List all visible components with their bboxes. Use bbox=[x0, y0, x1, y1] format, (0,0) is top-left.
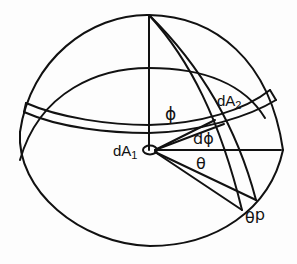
label-dA1: dA1 bbox=[113, 143, 137, 161]
label-dA1-sub: 1 bbox=[131, 149, 137, 161]
label-dA2: dA2 bbox=[217, 93, 241, 111]
band-left-cap bbox=[24, 103, 26, 112]
hemisphere-dome bbox=[20, 15, 283, 150]
label-dA2-main: dA bbox=[217, 92, 235, 109]
band-right-cap bbox=[270, 90, 276, 100]
label-dphi: dϕ bbox=[193, 131, 214, 147]
label-dA1-main: dA bbox=[113, 142, 131, 159]
label-dtheta: dθ bbox=[245, 208, 265, 224]
label-phi: ϕ bbox=[165, 106, 176, 123]
label-dA2-sub: 2 bbox=[235, 99, 241, 111]
hemisphere-diagram: ϕ dA2 dϕ dA1 θ dθ bbox=[0, 0, 297, 264]
label-theta: θ bbox=[196, 156, 206, 172]
